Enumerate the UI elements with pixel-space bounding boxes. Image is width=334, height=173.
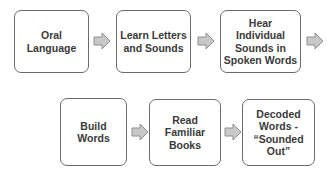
step-build-words: Build Words <box>60 98 127 166</box>
right-arrow-icon <box>306 32 324 50</box>
right-arrow-icon <box>197 32 215 50</box>
step-label: Decoded Words - “Sounded Out” <box>253 108 303 158</box>
right-arrow-icon <box>131 123 149 141</box>
right-arrow-icon <box>93 32 111 50</box>
step-read-familiar-books: Read Familiar Books <box>149 99 221 166</box>
step-label: Read Familiar Books <box>165 114 205 152</box>
step-label: Build Words <box>77 120 109 145</box>
step-label: Learn Letters and Sounds <box>120 29 187 54</box>
step-oral-language: Oral Language <box>14 10 89 73</box>
step-decoded-words: Decoded Words - “Sounded Out” <box>242 99 315 166</box>
right-arrow-icon <box>224 123 242 141</box>
step-label: Oral Language <box>27 29 77 54</box>
step-learn-letters-and-sounds: Learn Letters and Sounds <box>116 10 191 73</box>
step-hear-individual-sounds: Hear Individual Sounds in Spoken Words <box>220 10 301 73</box>
step-label: Hear Individual Sounds in Spoken Words <box>224 17 297 67</box>
